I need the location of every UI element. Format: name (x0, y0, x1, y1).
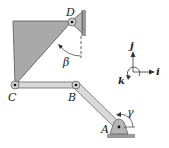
pin-a (118, 126, 121, 129)
mechanism-diagram: β γ D C B A j i k (0, 0, 169, 148)
pin-c (11, 81, 19, 89)
beta-angle-arc (60, 46, 81, 56)
gamma-label: γ (127, 106, 134, 119)
k-axis-label: k (118, 75, 125, 86)
point-d-label: D (65, 6, 75, 19)
k-arrowhead-icon (126, 75, 131, 80)
j-axis-label: j (128, 40, 134, 51)
coordinate-axes (126, 51, 155, 80)
point-a-label: A (100, 123, 109, 136)
pin-d (68, 18, 76, 26)
point-b-label: B (67, 91, 76, 104)
beta-label: β (62, 56, 69, 69)
point-c-label: C (8, 91, 17, 104)
i-axis-label: i (156, 66, 160, 77)
pin-b (72, 81, 80, 89)
j-arrow-icon (131, 51, 136, 57)
triangular-plate (13, 21, 72, 85)
i-arrow-icon (149, 70, 155, 75)
gamma-arrowhead-icon (116, 112, 121, 117)
link-cb (15, 82, 76, 88)
